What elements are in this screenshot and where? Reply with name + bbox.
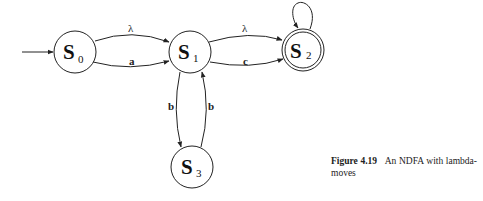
caption-text-line1: An NDFA with lambda- <box>385 156 477 166</box>
edge-s3-s1-b <box>201 72 206 147</box>
edge-label-s0-s1-lambda: λ <box>128 22 134 34</box>
state-s2: S 2 <box>282 29 324 71</box>
state-s2-label: S <box>290 39 302 63</box>
state-s0: S 0 <box>54 31 96 73</box>
state-s0-label: S <box>63 40 75 64</box>
state-s3: S 3 <box>171 146 213 188</box>
edge-label-s1-s3-b: b <box>168 100 174 112</box>
state-s1: S 1 <box>169 31 211 73</box>
edge-label-s3-s1-b: b <box>208 100 214 112</box>
state-s0-subscript: 0 <box>78 53 84 65</box>
edge-s1-s2-lambda <box>209 35 282 42</box>
state-s1-label: S <box>178 40 190 64</box>
state-s1-subscript: 1 <box>193 52 199 64</box>
caption-text-line2: moves <box>331 167 477 179</box>
edge-label-s1-s2-c: c <box>243 55 248 67</box>
edge-label-s1-s2-lambda: λ <box>242 22 248 34</box>
edge-label-s0-s1-a: a <box>129 55 135 67</box>
state-s3-subscript: 3 <box>196 167 202 179</box>
edge-s2-self-loop <box>293 2 313 29</box>
figure-caption: Figure 4.19 An NDFA with lambda- moves <box>331 155 477 179</box>
figure-number: Figure 4.19 <box>331 156 377 166</box>
state-s2-subscript: 2 <box>306 49 312 61</box>
edge-s1-s3-b <box>176 72 181 147</box>
state-s3-label: S <box>181 155 193 179</box>
edge-s0-s1-lambda <box>95 35 169 42</box>
